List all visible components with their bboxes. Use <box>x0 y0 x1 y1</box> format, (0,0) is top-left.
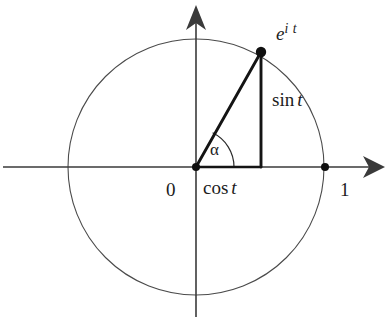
diagram-canvas <box>0 0 391 320</box>
label-cos-t: cost <box>203 178 237 197</box>
label-origin-zero: 0 <box>166 180 176 199</box>
point-origin-marker <box>192 163 200 171</box>
label-eit-exponent: i t <box>284 21 297 36</box>
label-sin-t: sint <box>272 90 302 109</box>
label-angle-alpha: α <box>210 141 219 158</box>
label-cos-argument: t <box>231 177 236 198</box>
label-unit-one: 1 <box>340 180 350 199</box>
point-one-marker <box>321 163 329 171</box>
label-sin-function: sin <box>272 89 294 110</box>
label-sin-argument: t <box>297 89 302 110</box>
radius-hypotenuse-segment <box>196 52 261 167</box>
point-eit-marker <box>256 47 266 57</box>
unit-circle-figure: ei t sint cost 0 1 α <box>0 0 391 320</box>
label-e-to-the-it: ei t <box>276 22 297 43</box>
label-cos-function: cos <box>203 177 228 198</box>
